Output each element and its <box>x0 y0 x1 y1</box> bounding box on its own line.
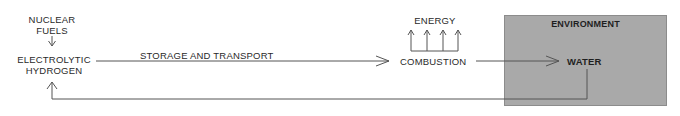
electrolytic-hydrogen-line2: HYDROGEN <box>14 65 94 76</box>
energy-arrows <box>408 30 461 51</box>
storage-transport-label: STORAGE AND TRANSPORT <box>140 50 274 61</box>
environment-label: ENVIRONMENT <box>504 19 667 30</box>
combustion-to-water-arrow <box>476 56 559 66</box>
electrolytic-hydrogen-line1: ELECTROLYTIC <box>14 54 94 65</box>
nuclear-fuels-label: NUCLEAR FUELS <box>28 14 76 36</box>
electrolytic-hydrogen-label: ELECTROLYTIC HYDROGEN <box>14 54 94 76</box>
water-label: WATER <box>567 56 602 67</box>
nuclear-fuels-line1: NUCLEAR <box>28 14 76 25</box>
nuclear-to-hydrogen-arrow <box>49 36 56 46</box>
water-return-loop <box>47 69 587 99</box>
energy-label: ENERGY <box>410 15 460 26</box>
combustion-label: COMBUSTION <box>400 56 466 67</box>
nuclear-fuels-line2: FUELS <box>28 25 76 36</box>
